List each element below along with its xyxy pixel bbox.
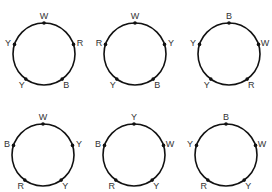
bead-label: W [258, 139, 267, 149]
bead-label: Y [76, 139, 82, 149]
bead-label: B [63, 80, 69, 90]
bead-dot [198, 43, 202, 47]
bead-dot [132, 122, 136, 126]
bead-dot [13, 43, 17, 47]
bead-label: Y [19, 80, 25, 90]
bead-label: B [154, 80, 160, 90]
necklace-ring [198, 23, 260, 85]
bead-label: R [200, 181, 207, 191]
diagram-canvas: WRBYYWYBYRBWRYYWYYRBYWYRBBWYRY [0, 0, 272, 192]
bead-label: R [77, 38, 84, 48]
bead-dot [195, 144, 199, 148]
bead-label: Y [153, 181, 159, 191]
bead-label: B [223, 112, 229, 122]
bead-label: W [39, 112, 48, 122]
bead-label: Y [187, 139, 193, 149]
necklace-4: WYYRB [4, 112, 82, 191]
necklace-ring [103, 124, 165, 186]
bead-label: Y [131, 112, 137, 122]
necklace-2: WYBYR [96, 11, 174, 90]
necklace-ring [13, 23, 75, 85]
bead-label: W [166, 139, 175, 149]
bead-label: R [96, 38, 103, 48]
bead-dot [227, 21, 231, 25]
bead-label: B [4, 139, 10, 149]
necklace-5: YWYRB [95, 112, 175, 191]
bead-dot [103, 144, 107, 148]
necklace-ring [104, 23, 166, 85]
necklace-ring [195, 124, 257, 186]
bead-dot [254, 144, 258, 148]
bead-dot [71, 144, 75, 148]
bead-necklace-diagram: WRBYYWYBYRBWRYYWYYRBYWYRBBWYRY [0, 0, 272, 192]
bead-dot [72, 43, 76, 47]
bead-dot [162, 144, 166, 148]
bead-dot [257, 43, 261, 47]
bead-label: Y [204, 80, 210, 90]
bead-label: Y [168, 38, 174, 48]
bead-label: R [108, 181, 115, 191]
bead-dot [12, 144, 16, 148]
bead-label: B [95, 139, 101, 149]
bead-label: R [248, 80, 255, 90]
bead-dot [104, 43, 108, 47]
bead-dot [42, 21, 46, 25]
bead-label: Y [62, 181, 68, 191]
bead-label: W [40, 11, 49, 21]
bead-label: R [17, 181, 24, 191]
bead-dot [133, 21, 137, 25]
necklace-1: WRBYY [5, 11, 84, 90]
bead-dot [224, 122, 228, 126]
bead-label: Y [110, 80, 116, 90]
necklace-6: BWYRY [187, 112, 267, 191]
bead-dot [163, 43, 167, 47]
bead-label: W [131, 11, 140, 21]
bead-label: B [226, 11, 232, 21]
bead-label: Y [190, 38, 196, 48]
bead-dot [41, 122, 45, 126]
bead-label: W [261, 38, 270, 48]
necklace-3: BWRYY [190, 11, 270, 90]
bead-label: Y [245, 181, 251, 191]
necklace-ring [12, 124, 74, 186]
bead-label: Y [5, 38, 11, 48]
